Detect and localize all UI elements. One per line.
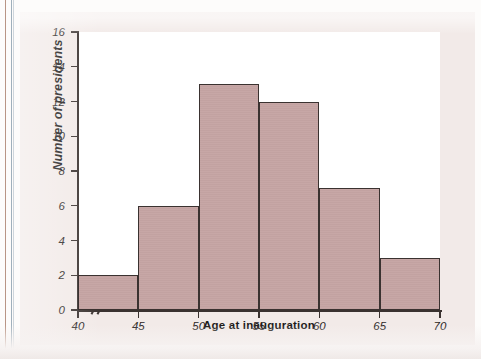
y-tick-label: 2	[43, 269, 65, 281]
y-tick-mark	[71, 66, 77, 67]
x-tick-mark	[77, 312, 78, 318]
page-margin-rule-blue	[11, 0, 12, 359]
y-tick-mark	[71, 205, 77, 206]
x-tick-mark	[319, 312, 320, 318]
y-tick-mark	[71, 240, 77, 241]
page-margin-rule-blue-secondary	[13, 0, 14, 359]
y-tick-label: 4	[43, 235, 65, 247]
x-tick-mark	[258, 312, 259, 318]
page-margin-rule-brown	[5, 0, 6, 359]
y-tick-mark	[71, 101, 77, 102]
histogram-bar	[199, 84, 259, 310]
y-tick-mark	[71, 136, 77, 137]
histogram-figure: 0246810121416 40455055606570 Number of p…	[20, 12, 475, 345]
histogram-bar	[78, 275, 138, 310]
x-tick-mark	[379, 312, 380, 318]
histogram-bar	[259, 102, 319, 311]
y-tick-label: 0	[43, 304, 65, 316]
histogram-bar	[319, 188, 379, 310]
page-bottom-shadow	[0, 325, 481, 359]
x-tick-mark	[138, 312, 139, 318]
y-tick-mark	[71, 309, 77, 310]
x-tick-mark	[439, 312, 440, 318]
y-axis-line	[77, 31, 79, 312]
y-tick-label: 6	[43, 200, 65, 212]
y-tick-mark	[71, 31, 77, 32]
histogram-bar	[380, 258, 440, 310]
bar-series	[78, 32, 440, 310]
y-tick-mark	[71, 170, 77, 171]
scanned-page: 0246810121416 40455055606570 Number of p…	[0, 0, 481, 359]
y-tick-mark	[71, 275, 77, 276]
y-axis-title: Number of presidents	[51, 25, 65, 185]
histogram-bar	[138, 206, 198, 310]
x-tick-mark	[198, 312, 199, 318]
